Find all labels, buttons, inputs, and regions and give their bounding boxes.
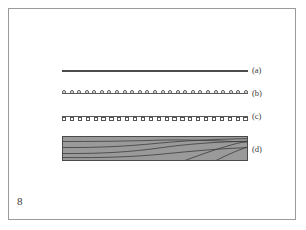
specimen-marker-square: [133, 117, 137, 121]
specimen-marker-square: [157, 117, 161, 121]
specimen-marker-square: [62, 117, 66, 121]
specimen-marker-square: [220, 117, 224, 121]
specimen-marker-square: [204, 117, 208, 121]
figure-page: (a) (b) (c) (d) 8: [0, 0, 306, 230]
wood-grain-icon: [63, 137, 248, 161]
figure-label-a: (a): [252, 66, 261, 75]
figure-label-b: (b): [252, 89, 262, 98]
figure-label-c: (c): [252, 112, 261, 121]
specimen-marker-square: [228, 117, 232, 121]
specimen-marker-square: [70, 117, 74, 121]
specimen-marker-square: [236, 117, 240, 121]
specimen-marker-square: [172, 117, 176, 121]
specimen-marker-square: [125, 117, 129, 121]
specimen-marker-square: [94, 117, 98, 121]
specimen-marker-square: [243, 117, 247, 121]
specimen-marker-square: [165, 117, 169, 121]
specimen-marker-square: [149, 117, 153, 121]
specimen-marker-square: [141, 117, 145, 121]
specimen-marker-square: [101, 117, 105, 121]
specimen-marker-square: [78, 117, 82, 121]
specimen-marker-square: [180, 117, 184, 121]
specimen-marker-square: [196, 117, 200, 121]
specimen-marker-square: [117, 117, 121, 121]
specimen-wood-block-d: [62, 136, 248, 161]
page-number: 8: [17, 196, 23, 207]
specimen-marker-square: [188, 117, 192, 121]
figure-label-d: (d): [252, 145, 262, 154]
specimen-line-b: [62, 93, 248, 94]
specimen-marker-square: [86, 117, 90, 121]
specimen-line-a: [62, 70, 248, 72]
specimen-marker-square: [109, 117, 113, 121]
specimen-marker-square: [212, 117, 216, 121]
specimen-markers-c: [62, 117, 248, 123]
